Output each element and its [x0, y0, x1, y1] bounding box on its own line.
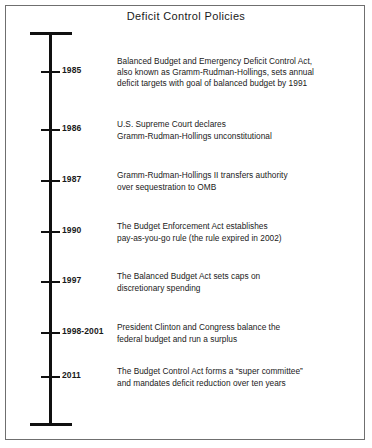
timeline-figure: Deficit Control Policies 1985Balanced Bu…	[0, 0, 372, 448]
timeline-event-description-line: President Clinton and Congress balance t…	[117, 322, 365, 333]
timeline-axis-top-cap	[30, 32, 72, 35]
timeline-year-label: 1985	[62, 65, 81, 75]
timeline-event-description: The Budget Control Act forms a “super co…	[117, 366, 365, 388]
timeline-event-description: Balanced Budget and Emergency Deficit Co…	[117, 56, 365, 90]
timeline-year-label: 2011	[62, 370, 81, 380]
timeline-event-description: Gramm-Rudman-Hollings II transfers autho…	[117, 170, 365, 192]
timeline-axis	[49, 32, 52, 426]
timeline-tick-mark	[41, 281, 60, 283]
timeline-event-description-line: and mandates deficit reduction over ten …	[117, 378, 365, 389]
timeline-tick-mark	[41, 180, 60, 182]
timeline-tick-mark	[41, 231, 60, 233]
timeline-event-description: The Budget Enforcement Act establishespa…	[117, 221, 365, 243]
timeline-year-label: 1987	[62, 174, 81, 184]
timeline-event-description-line: deficit targets with goal of balanced bu…	[117, 78, 365, 89]
timeline-year-label: 1997	[62, 275, 81, 285]
timeline-event-description-line: pay-as-you-go rule (the rule expired in …	[117, 233, 365, 244]
timeline-tick-mark	[41, 129, 60, 131]
timeline-event-description: The Balanced Budget Act sets caps ondisc…	[117, 271, 365, 293]
timeline-year-label: 1990	[62, 225, 81, 235]
timeline-event-description-line: The Budget Enforcement Act establishes	[117, 221, 365, 232]
timeline-event-description-line: federal budget and run a surplus	[117, 334, 365, 345]
timeline-event-description-line: The Balanced Budget Act sets caps on	[117, 271, 365, 282]
timeline-tick-mark	[41, 332, 60, 334]
timeline-tick-mark	[41, 71, 60, 73]
timeline-event-description-line: over sequestration to OMB	[117, 182, 365, 193]
timeline-tick-mark	[41, 376, 60, 378]
timeline-event-description-line: also known as Gramm-Rudman-Hollings, set…	[117, 67, 365, 78]
timeline-event-description: President Clinton and Congress balance t…	[117, 322, 365, 344]
timeline-event-description-line: Gramm-Rudman-Hollings II transfers autho…	[117, 170, 365, 181]
timeline-event-description-line: U.S. Supreme Court declares	[117, 119, 365, 130]
timeline-event-description-line: Gramm-Rudman-Hollings unconstitutional	[117, 131, 365, 142]
timeline-year-label: 1998-2001	[62, 326, 104, 336]
timeline-event-description-line: The Budget Control Act forms a “super co…	[117, 366, 365, 377]
timeline-axis-bottom-cap	[30, 423, 72, 426]
timeline-year-label: 1986	[62, 123, 81, 133]
timeline-event-description-line: Balanced Budget and Emergency Deficit Co…	[117, 56, 365, 67]
figure-title: Deficit Control Policies	[0, 10, 372, 22]
timeline-event-description: U.S. Supreme Court declaresGramm-Rudman-…	[117, 119, 365, 141]
timeline-event-description-line: discretionary spending	[117, 283, 365, 294]
